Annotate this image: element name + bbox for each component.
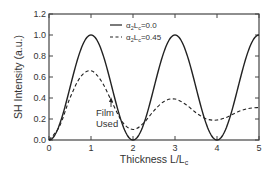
annotation-line2: Used [96, 118, 118, 129]
x-tick-label: 4 [214, 143, 219, 153]
y-tick-label: 0.2 [33, 114, 46, 124]
x-tick-label: 0 [46, 143, 51, 153]
x-tick-label: 3 [172, 143, 177, 153]
legend: α2Lc=0.0α2Lc=0.45 [110, 21, 162, 43]
y-tick-label: 1.0 [33, 30, 46, 40]
axis-ticks: 0123450.00.20.40.60.81.01.2 [33, 9, 261, 153]
y-tick-label: 0.4 [33, 93, 46, 103]
x-tick-label: 5 [256, 143, 261, 153]
y-tick-label: 0.8 [33, 51, 46, 61]
film-used-annotation: FilmUsed [96, 97, 118, 129]
sh-intensity-chart: 0123450.00.20.40.60.81.01.2 α2Lc=0.0α2Lc… [0, 0, 275, 171]
legend-label: α2Lc=0.0 [126, 21, 157, 31]
y-tick-label: 0.0 [33, 135, 46, 145]
data-series [49, 35, 259, 140]
series-solid-line [49, 35, 259, 140]
legend-label: α2Lc=0.45 [126, 33, 162, 43]
x-tick-label: 2 [130, 143, 135, 153]
x-axis-label: Thickness L/Lc [120, 153, 189, 166]
y-tick-label: 1.2 [33, 9, 46, 19]
annotation-line1: Film [96, 107, 114, 118]
y-axis-label: SH Intensity (a.u.) [12, 35, 24, 119]
x-tick-label: 1 [88, 143, 93, 153]
y-tick-label: 0.6 [33, 72, 46, 82]
series-dashed-line [49, 71, 259, 140]
